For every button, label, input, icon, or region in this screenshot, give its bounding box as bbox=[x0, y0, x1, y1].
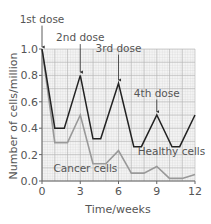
dose-label-1: 1st dose bbox=[20, 13, 65, 25]
x-tick-label: 3 bbox=[77, 185, 84, 198]
cancer-cells-label: Cancer cells bbox=[53, 162, 117, 174]
healthy-cells-label: Healthy cells bbox=[138, 145, 206, 157]
dose-label-4: 4th dose bbox=[134, 87, 180, 99]
x-tick-label: 6 bbox=[115, 185, 122, 198]
y-tick-label: 0.0 bbox=[21, 175, 39, 188]
y-tick-label: 0.2 bbox=[21, 149, 39, 162]
x-tick-label: 12 bbox=[188, 185, 202, 198]
dose-label-3: 3rd dose bbox=[96, 42, 142, 54]
x-tick-label: 0 bbox=[39, 185, 46, 198]
chart-canvas: 0369120.00.20.40.60.81.0 Healthy cellsCa… bbox=[0, 0, 211, 224]
y-tick-label: 0.4 bbox=[21, 122, 39, 135]
x-tick-label: 9 bbox=[153, 185, 160, 198]
cell-count-chart: 0369120.00.20.40.60.81.0 Healthy cellsCa… bbox=[0, 0, 211, 224]
y-tick-label: 1.0 bbox=[21, 43, 39, 56]
y-axis-label: Number of cells/million bbox=[7, 53, 20, 180]
y-tick-label: 0.6 bbox=[21, 96, 39, 109]
y-tick-label: 0.8 bbox=[21, 69, 39, 82]
x-axis-label: Time/weeks bbox=[84, 203, 151, 216]
